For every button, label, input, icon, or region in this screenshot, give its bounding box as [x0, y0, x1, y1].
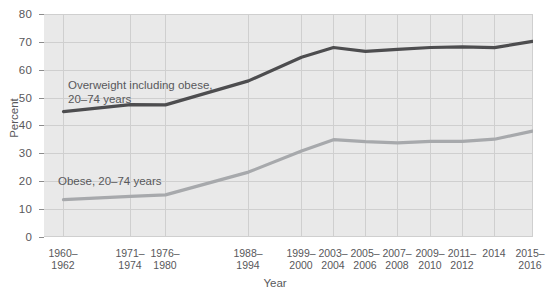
x-tick-label-1988-1994: 1988– 1994	[228, 247, 268, 271]
plot-area	[44, 14, 533, 237]
y-tick-mark-0	[39, 237, 44, 238]
y-tick-label-70: 70	[0, 36, 32, 48]
annotation-obese-label: Obese, 20–74 years	[58, 175, 162, 189]
y-tick-label-20: 20	[0, 175, 32, 187]
x-tick-label-1976-1980: 1976– 1980	[145, 247, 185, 271]
plot-svg	[44, 14, 533, 237]
annotation-overweight-label: Overweight including obese, 20–74 years	[68, 79, 212, 106]
y-tick-label-10: 10	[0, 203, 32, 215]
percent-by-year-line-chart: Percent 80 70 60 50 40 30 20 10 0	[0, 0, 550, 291]
x-axis-title: Year	[0, 277, 550, 289]
x-tick-label-1971-1974: 1971– 1974	[110, 247, 150, 271]
y-tick-label-0: 0	[0, 231, 32, 243]
y-tick-label-60: 60	[0, 64, 32, 76]
y-tick-label-80: 80	[0, 8, 32, 20]
x-tick-label-2015-2016: 2015– 2016	[510, 247, 550, 271]
y-tick-label-50: 50	[0, 92, 32, 104]
x-tick-label-1960-1962: 1960– 1962	[43, 247, 83, 271]
y-tick-label-40: 40	[0, 119, 32, 131]
y-tick-label-30: 30	[0, 147, 32, 159]
x-tick-label-2014: 2014	[474, 247, 514, 259]
